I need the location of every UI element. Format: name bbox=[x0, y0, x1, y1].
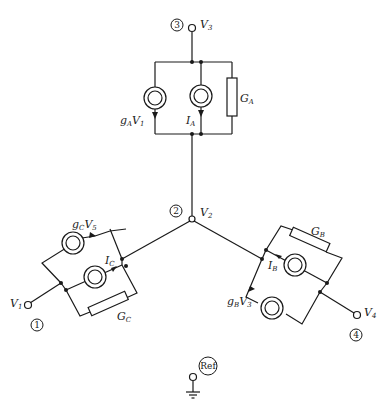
circuit-diagram: gAV1 IA GA 3 V3 2 V2 bbox=[0, 0, 385, 413]
current-source-ic bbox=[84, 266, 106, 288]
terminal-node4 bbox=[354, 312, 361, 319]
arrow-up-icon bbox=[248, 286, 255, 292]
label-ga-v1: gAV1 bbox=[120, 114, 145, 128]
label-ic: IC bbox=[104, 254, 115, 268]
wire-gc-cond-l bbox=[66, 290, 90, 316]
wire-gbv3-l bbox=[246, 259, 262, 303]
wire-node2-to-b bbox=[194, 221, 262, 259]
current-source-ib bbox=[284, 254, 306, 276]
conductance-ga bbox=[227, 78, 237, 116]
node-number-4: 4 bbox=[353, 330, 359, 340]
wire-gb-l bbox=[266, 226, 293, 250]
junction-dot bbox=[199, 132, 203, 136]
controlled-current-source-gc bbox=[62, 232, 84, 254]
arrow-right-icon bbox=[89, 232, 96, 238]
wire-gc-path-r bbox=[110, 229, 126, 231]
label-gb-v3: gBV3 bbox=[227, 295, 252, 309]
wire-gc-right bbox=[110, 229, 122, 259]
label-gc: GC bbox=[117, 310, 132, 324]
controlled-current-source-ga bbox=[144, 87, 166, 109]
label-ia: IA bbox=[185, 114, 195, 128]
junction-dot bbox=[318, 290, 322, 294]
node-number-1: 1 bbox=[34, 320, 40, 330]
wire-gb-r bbox=[326, 252, 342, 283]
node-number-3: 3 bbox=[174, 20, 180, 30]
label-v4: V4 bbox=[364, 306, 376, 320]
label-ib: IB bbox=[267, 259, 278, 273]
junction-dot bbox=[59, 281, 63, 285]
label-v1: V1 bbox=[10, 297, 22, 311]
junction-dot bbox=[190, 60, 194, 64]
wire-b-to-node4 bbox=[320, 292, 354, 313]
branch-c: gCV5 IC GC bbox=[30, 218, 137, 324]
junction-dot bbox=[124, 264, 128, 268]
arrow-down-icon bbox=[152, 112, 158, 119]
terminal-ref bbox=[190, 374, 197, 381]
controlled-current-source-gb bbox=[261, 297, 283, 319]
branch-b: GB IB gBV3 bbox=[227, 225, 354, 324]
wire-c-to-node1 bbox=[30, 283, 61, 303]
label-v2: V2 bbox=[200, 206, 213, 220]
branch-a: gAV1 IA GA bbox=[120, 32, 254, 218]
terminal-node1 bbox=[25, 302, 32, 309]
junction-dot bbox=[325, 281, 329, 285]
junction-dot bbox=[199, 60, 203, 64]
label-gc-v5: gCV5 bbox=[72, 218, 97, 232]
node-number-2: 2 bbox=[173, 206, 179, 216]
label-ga: GA bbox=[240, 92, 254, 106]
wire-gc-mid bbox=[95, 231, 110, 236]
wire-gbv3-r bbox=[286, 292, 320, 324]
node-3: 3 V3 bbox=[171, 18, 213, 32]
junction-dot bbox=[260, 257, 264, 261]
node-4: 4 V4 bbox=[350, 306, 376, 341]
current-source-ia bbox=[190, 85, 212, 107]
junction-dot bbox=[264, 248, 268, 252]
node-1: 1 V1 bbox=[10, 297, 43, 331]
label-gb: GB bbox=[311, 225, 325, 239]
label-v3: V3 bbox=[200, 18, 213, 32]
terminal-node3 bbox=[189, 25, 196, 32]
junction-dot bbox=[120, 257, 124, 261]
arrow-down-icon bbox=[198, 110, 204, 117]
junction-dot bbox=[64, 288, 68, 292]
node-label-ref: Ref bbox=[200, 361, 216, 371]
wire-node2-to-c bbox=[122, 221, 190, 259]
reference-ground: Ref bbox=[186, 357, 217, 398]
